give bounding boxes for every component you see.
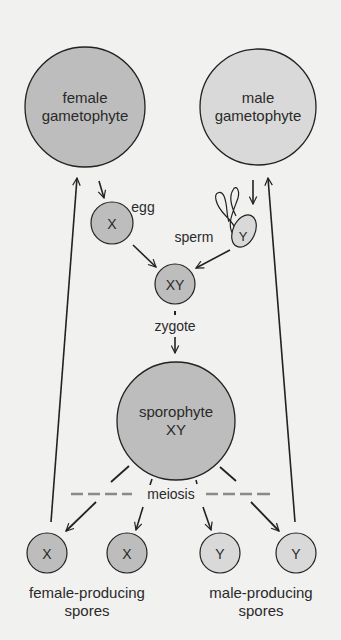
spore-symbol-1: X (42, 546, 51, 563)
spore-symbol-4: Y (291, 546, 300, 563)
sporophyte-label: sporophyte XY (139, 403, 213, 439)
spore-symbol-3: Y (215, 546, 224, 563)
sporophyte-line2: XY (139, 421, 213, 439)
female-spores-line2: spores (29, 602, 145, 620)
female-spores-label: female-producing spores (29, 584, 145, 620)
life-cycle-diagram: female gametophyte male gametophyte X eg… (0, 0, 341, 640)
egg-symbol: X (107, 216, 116, 233)
spore-symbol-2: X (122, 546, 131, 563)
meiosis-to-spore-1-arrow (66, 502, 96, 531)
zygote-symbol: XY (166, 277, 185, 294)
male-gametophyte-label: male gametophyte (215, 89, 302, 125)
male-spores-line2: spores (209, 602, 312, 620)
male-spores-line1: male-producing (209, 584, 312, 602)
egg-to-zygote-arrow (133, 245, 156, 267)
meiosis-to-spore-3-arrow (203, 507, 211, 530)
male-gametophyte-line1: male (215, 89, 302, 107)
male-gametophyte-line2: gametophyte (215, 107, 302, 125)
sperm-label: sperm (175, 229, 214, 246)
male-spores-label: male-producing spores (209, 584, 312, 620)
zygote-label: zygote (154, 318, 195, 335)
female-gametophyte-line2: gametophyte (42, 107, 129, 125)
sporophyte-line1: sporophyte (139, 403, 213, 421)
female-gametophyte-label: female gametophyte (42, 89, 129, 125)
meiosis-to-spore-4-arrow (251, 502, 279, 531)
sperm-to-zygote-arrow (196, 250, 230, 268)
female-spore-to-gametophyte-arrow (51, 178, 77, 522)
female-spores-line1: female-producing (29, 584, 145, 602)
meiosis-to-spore-2-arrow (136, 507, 143, 530)
egg-label: egg (131, 199, 154, 216)
meiosis-label: meiosis (145, 486, 196, 503)
female-gametophyte-to-egg-arrow (99, 181, 104, 198)
female-gametophyte-line1: female (42, 89, 129, 107)
male-spore-to-gametophyte-arrow (268, 178, 295, 522)
sperm-symbol: Y (239, 228, 248, 245)
